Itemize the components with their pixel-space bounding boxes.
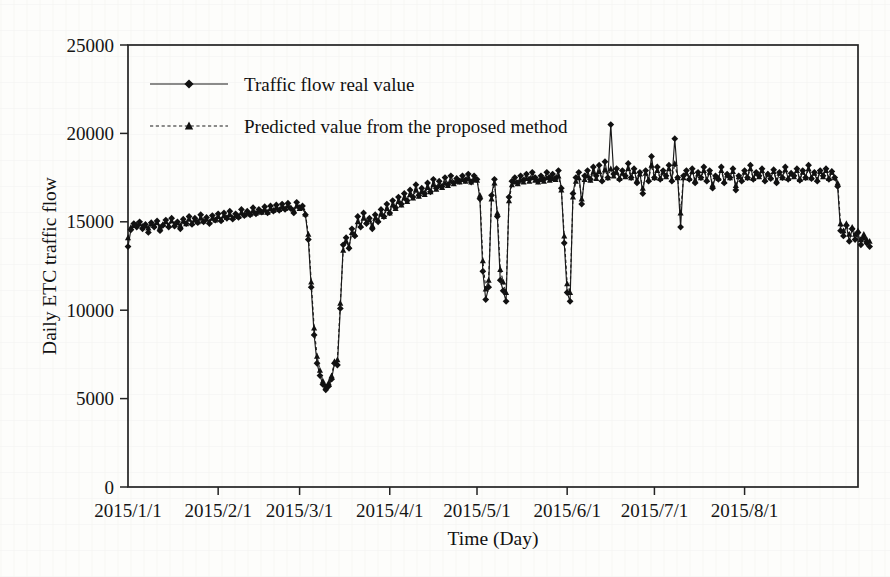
data-point-marker [646,176,652,182]
y-axis-ticks: 0500010000150002000025000 [67,35,129,498]
data-point-marker [314,353,320,359]
data-point-marker [125,243,132,250]
chart-legend: Traffic flow real valuePredicted value f… [150,74,568,137]
data-point-marker [678,210,684,216]
x-tick-label: 2015/5/1 [443,500,511,521]
y-tick-label: 0 [105,477,115,498]
data-point-marker [308,279,314,285]
plot-frame [128,45,858,487]
x-tick-label: 2015/2/1 [184,500,252,521]
data-point-marker [838,220,844,226]
data-point-marker [579,196,585,202]
data-point-marker [634,177,640,183]
data-point-marker [564,280,570,286]
x-tick-label: 2015/8/1 [711,500,779,521]
data-point-marker [329,372,335,378]
data-point-marker [843,220,849,226]
x-tick-label: 2015/4/1 [356,500,424,521]
x-tick-label: 2015/7/1 [621,500,689,521]
y-tick-label: 20000 [67,123,115,144]
data-series-group [125,121,873,393]
legend-diamond-marker-icon [184,79,193,88]
data-point-marker [334,357,340,363]
x-tick-label: 2015/6/1 [533,500,601,521]
x-axis-title: Time (Day) [448,528,539,550]
x-axis-ticks: 2015/1/12015/2/12015/3/12015/4/12015/5/1… [94,487,778,521]
data-point-marker [677,224,684,231]
data-point-marker [846,238,853,245]
data-point-marker [425,184,431,190]
data-point-marker [625,166,631,172]
data-point-marker [596,162,603,169]
data-point-marker [340,247,346,253]
y-tick-label: 5000 [76,388,114,409]
data-point-marker [607,121,614,128]
data-point-marker [497,266,503,272]
data-point-marker [861,231,867,237]
data-point-marker [733,182,739,188]
x-tick-label: 2015/3/1 [266,500,334,521]
data-point-marker [578,201,585,208]
chart-canvas: Daily ETC traffic flow 05000100001500020… [0,0,890,577]
data-point-marker [648,153,655,160]
data-point-marker [346,243,352,249]
data-point-marker [503,298,510,305]
data-point-marker [482,296,489,303]
series-traffic-flow-real-value [125,121,873,393]
data-point-marker [567,298,574,305]
data-point-marker [337,300,343,306]
data-point-marker [692,177,698,183]
data-point-marker [494,210,500,216]
figure-chart-daily-etc-traffic-flow: Daily ETC traffic flow 05000100001500020… [0,0,890,577]
data-point-marker [561,233,567,239]
data-point-marker [840,233,847,240]
data-point-marker [361,215,367,221]
data-point-marker [479,268,486,275]
data-point-marker [602,158,609,165]
data-point-marker [480,257,486,263]
y-tick-label: 10000 [67,300,115,321]
data-point-marker [721,178,727,184]
data-point-marker [486,277,492,283]
data-point-marker [704,176,710,182]
data-point-marker [710,181,716,187]
data-point-marker [855,227,861,233]
data-point-marker [640,185,646,191]
data-point-marker [384,205,390,211]
data-point-marker [355,219,361,225]
data-point-marker [648,162,654,168]
data-point-marker [669,176,675,182]
data-point-marker [639,190,646,197]
data-point-marker [814,176,820,182]
legend-item-label: Predicted value from the proposed method [244,116,568,137]
y-tick-label: 25000 [67,35,115,56]
data-point-marker [671,135,678,142]
data-point-marker [305,231,311,237]
data-point-marker [413,187,419,193]
x-tick-label: 2015/1/1 [94,500,162,521]
data-point-marker [602,166,608,172]
data-point-marker [849,224,855,230]
legend-item-label: Traffic flow real value [244,74,414,95]
y-tick-label: 15000 [67,211,115,232]
data-point-marker [477,192,483,198]
data-point-marker [774,177,780,183]
series-predicted-value [125,160,873,389]
y-axis-title: Daily ETC traffic flow [39,177,60,355]
data-point-marker [599,176,605,182]
data-point-marker [311,325,317,331]
